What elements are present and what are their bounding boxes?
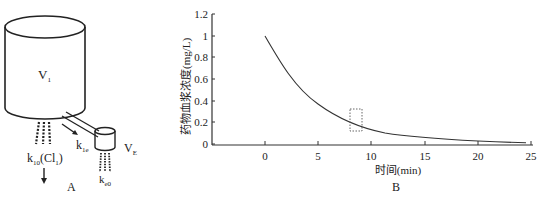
effect-volume-label: VE <box>124 141 137 157</box>
svg-text:1: 1 <box>203 30 209 42</box>
concentration-curve <box>265 36 526 143</box>
figure: V1 k10(Cl1) k1e <box>0 0 541 197</box>
k1e-arrow-icon <box>62 124 78 135</box>
panel-a-label: A <box>67 180 76 194</box>
k10-label: k10(Cl1) <box>27 151 63 167</box>
elimination-arrow-icon <box>41 168 47 184</box>
k1e-label: k1e <box>76 138 89 154</box>
ke0-outflow-streams <box>100 153 110 172</box>
panel-b-chart: 药物血浆浓度(mg/L) 0 0.2 0.4 0.6 0.8 1 1.2 <box>179 8 537 194</box>
svg-text:0.8: 0.8 <box>194 51 208 63</box>
y-tick-labels: 0 0.2 0.4 0.6 0.8 1 1.2 <box>194 8 208 150</box>
k10-outflow-streams <box>36 122 50 144</box>
svg-text:0.2: 0.2 <box>194 116 208 128</box>
axes <box>212 14 533 145</box>
transfer-tube <box>62 112 99 137</box>
svg-text:1.2: 1.2 <box>194 8 208 20</box>
x-tick-labels: 0 5 10 15 20 25 <box>262 150 537 162</box>
panel-a-diagram: V1 k10(Cl1) k1e <box>5 16 137 194</box>
x-axis-label: 时间(min) <box>375 164 422 177</box>
svg-text:10: 10 <box>366 150 378 162</box>
y-axis-label: 药物血浆浓度(mg/L) <box>179 38 193 135</box>
dotted-highlight-box <box>350 109 362 131</box>
svg-text:5: 5 <box>315 150 321 162</box>
svg-text:25: 25 <box>526 150 538 162</box>
panel-b-label: B <box>392 180 400 194</box>
svg-text:15: 15 <box>420 150 432 162</box>
ke0-label: ke0 <box>99 173 112 188</box>
svg-text:0.4: 0.4 <box>194 95 208 107</box>
svg-text:20: 20 <box>473 150 485 162</box>
svg-text:0: 0 <box>203 138 209 150</box>
central-volume-label: V1 <box>38 67 51 84</box>
svg-text:0: 0 <box>262 150 268 162</box>
svg-text:0.6: 0.6 <box>194 73 208 85</box>
